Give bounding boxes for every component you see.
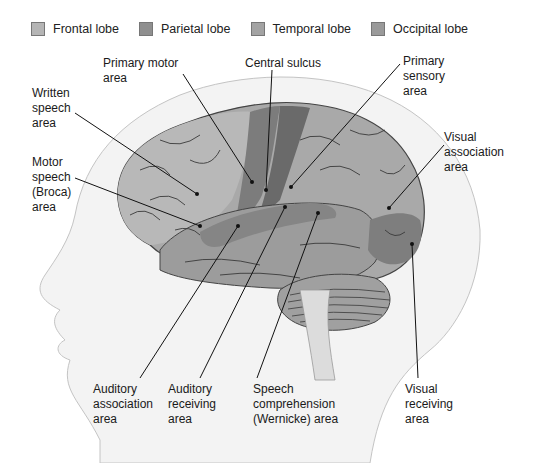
cerebellum xyxy=(278,274,390,330)
label-visual-association: Visual association area xyxy=(444,130,504,175)
label-primary-motor: Primary motor area xyxy=(103,56,178,86)
label-written-speech: Written speech area xyxy=(32,86,71,131)
label-motor-speech: Motor speech (Broca) area xyxy=(32,155,71,215)
label-primary-sensory: Primary sensory area xyxy=(403,54,445,99)
label-visual-receiving: Visual receiving area xyxy=(405,382,453,427)
label-central-sulcus: Central sulcus xyxy=(245,56,321,71)
label-auditory-receiving: Auditory receiving area xyxy=(168,382,216,427)
label-auditory-association: Auditory association area xyxy=(93,382,153,427)
label-speech-comprehension: Speech comprehension (Wernicke) area xyxy=(253,382,338,427)
